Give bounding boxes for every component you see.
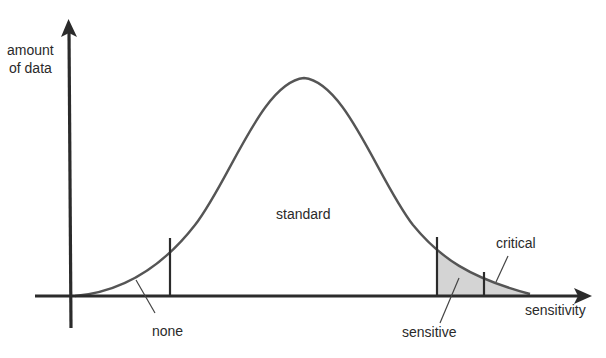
critical-leader-line — [496, 256, 508, 282]
y-axis-label-line1: amount — [7, 42, 54, 58]
y-axis — [69, 30, 71, 328]
y-axis-label-line2: of data — [9, 60, 52, 76]
bell-curve — [75, 78, 530, 296]
x-axis-label: sensitivity — [525, 302, 586, 318]
region-label-standard: standard — [276, 206, 330, 222]
region-label-critical: critical — [496, 235, 536, 251]
region-label-none: none — [152, 323, 183, 339]
shaded-tail-region — [75, 78, 530, 296]
sensitivity-distribution-diagram: amount of data sensitivity none standard… — [0, 0, 606, 358]
region-label-sensitive: sensitive — [402, 324, 457, 340]
